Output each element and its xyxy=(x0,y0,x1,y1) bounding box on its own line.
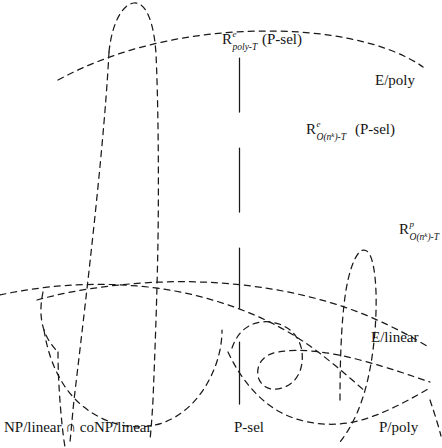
curve-bottom-left-hook xyxy=(41,292,58,352)
r-subscript-pre: O(n xyxy=(410,232,425,242)
r-argument: (P-sel) xyxy=(355,121,395,137)
r-subscript-post: )-T xyxy=(334,132,346,142)
curve-e-linear-spike xyxy=(340,250,376,442)
curve-right-edge-tail xyxy=(430,400,441,436)
r-argument: (P-sel) xyxy=(262,31,302,47)
r-base: R xyxy=(222,31,232,47)
r-base: R xyxy=(306,121,316,137)
node-label-p-poly: P/poly xyxy=(379,420,418,435)
r-superscript: e xyxy=(233,30,237,39)
r-superscript: p xyxy=(410,220,415,229)
curve-p-sel-lobe xyxy=(44,330,222,427)
r-subscript-post: )-T xyxy=(427,232,439,242)
r-subscript-exponent: k xyxy=(331,131,334,139)
curve-bottom-center-swoop xyxy=(228,352,430,424)
node-label-np-conp-linear: NP/linear ∩ coNP/linear xyxy=(4,420,151,435)
node-label-e-poly: E/poly xyxy=(375,73,415,88)
node-label-r-onk-p: RpO(nk)-T(P-sel) xyxy=(399,222,442,237)
node-label-r-onk-e: ReO(nk)-T(P-sel) xyxy=(306,122,395,137)
r-superscript: e xyxy=(317,120,321,129)
r-base: R xyxy=(399,221,409,237)
r-subscript: O(nk)-T xyxy=(410,233,440,243)
r-subscript-exponent: k xyxy=(424,231,427,239)
curve-np-conp-linear-left-spike xyxy=(109,3,158,440)
curve-np-conp-linear-descend xyxy=(70,52,109,442)
r-subscript: O(nk)-T xyxy=(317,133,347,143)
node-label-e-linear: E/linear xyxy=(371,330,418,345)
complexity-class-diagram xyxy=(0,0,442,448)
r-subscript: poly-T xyxy=(233,43,258,53)
node-label-p-sel: P-sel xyxy=(234,420,264,435)
node-label-r-poly-t: Repoly-T(P-sel) xyxy=(222,32,302,47)
r-subscript-pre: O(n xyxy=(317,132,332,142)
curve-e-linear-boundary xyxy=(0,284,366,392)
